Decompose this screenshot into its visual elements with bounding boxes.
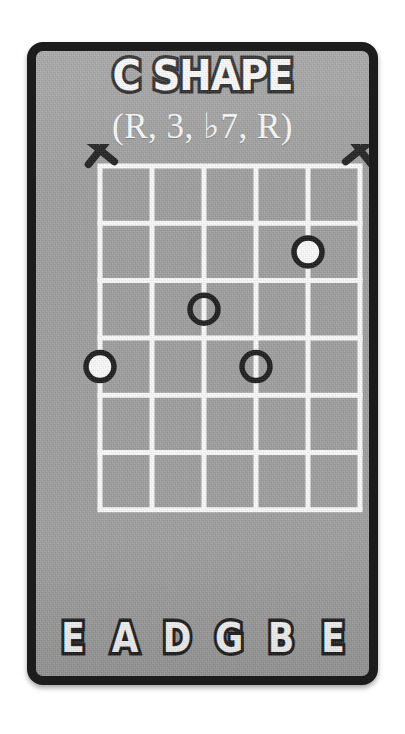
string-label-2: A bbox=[102, 618, 147, 658]
string-label-5: B bbox=[258, 618, 303, 658]
string-label-row: EADGBE bbox=[36, 610, 369, 666]
note-marker-root[interactable] bbox=[86, 353, 114, 381]
fretboard-grid bbox=[45, 144, 378, 614]
string-label-1: E bbox=[50, 618, 95, 658]
muted-string-x-icon bbox=[86, 144, 115, 164]
card-inner: C SHAPE (R, 3, ♭7, R) EADGBE bbox=[36, 51, 369, 676]
chord-degrees-subtitle: (R, 3, ♭7, R) bbox=[36, 109, 369, 144]
chord-diagram-card: C SHAPE (R, 3, ♭7, R) EADGBE bbox=[27, 42, 378, 685]
page-title: C SHAPE bbox=[49, 55, 355, 97]
string-label-3: D bbox=[154, 618, 199, 658]
string-label-6: E bbox=[310, 618, 355, 658]
note-marker-root[interactable] bbox=[294, 238, 322, 266]
muted-string-x-icon bbox=[346, 144, 375, 164]
string-label-4: G bbox=[206, 618, 251, 658]
